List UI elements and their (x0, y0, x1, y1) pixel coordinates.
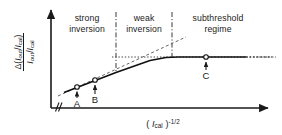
x-axis-label-exponent: -1/2 (169, 118, 180, 125)
data-point-c (204, 55, 209, 70)
y-axis-numerator-sub2: cal (16, 37, 23, 45)
region-label-weak-inversion: weak inversion (119, 13, 169, 34)
y-axis-label-denominator: Iout/Ical (23, 33, 35, 72)
region-label-strong-inversion-line1: strong (63, 13, 111, 24)
region-label-subthreshold-regime-line1: subthreshold (176, 13, 260, 24)
y-axis-numerator-sub1: out (16, 50, 23, 58)
x-axis-label: ( Ical )-1/2 (118, 117, 208, 131)
y-axis-denominator-var1: I (25, 61, 35, 63)
y-axis-numerator-var2: I (13, 45, 23, 47)
point-c-marker (204, 55, 209, 60)
region-label-weak-inversion-line1: weak (119, 13, 169, 24)
data-point-a (75, 85, 80, 98)
y-axis-label-container: Δ(Iout/Ical) Iout/Ical (0, 10, 48, 94)
y-axis-denominator-sub2: cal (28, 40, 35, 48)
y-axis-numerator-delta: Δ( (13, 61, 23, 70)
region-label-weak-inversion-line2: inversion (119, 24, 169, 35)
point-a-marker (75, 85, 80, 90)
figure-container: strong inversion weak inversion subthres… (0, 0, 282, 135)
main-curve (64, 57, 246, 93)
region-label-subthreshold-regime: subthreshold regime (176, 13, 260, 34)
region-label-strong-inversion-line2: inversion (63, 24, 111, 35)
region-label-subthreshold-regime-line2: regime (176, 24, 260, 35)
point-b-marker (93, 78, 98, 83)
axis-break-icon (56, 103, 63, 112)
y-axis-denominator-slash: / (25, 50, 35, 52)
y-axis-denominator-var2: I (25, 48, 35, 50)
y-axis-denominator-sub1: out (28, 53, 35, 61)
point-c-label: C (200, 71, 212, 82)
y-axis-label: Δ(Iout/Ical) Iout/Ical (13, 33, 35, 72)
region-label-strong-inversion: strong inversion (63, 13, 111, 34)
x-axis-label-subscript: cal (154, 122, 162, 129)
y-axis-numerator-close: ) (13, 35, 23, 38)
data-point-b (93, 78, 98, 94)
y-axis-label-numerator: Δ(Iout/Ical) (13, 33, 23, 72)
point-b-label: B (89, 95, 101, 106)
y-axis-numerator-var1: I (13, 58, 23, 60)
point-a-label: A (71, 99, 83, 110)
